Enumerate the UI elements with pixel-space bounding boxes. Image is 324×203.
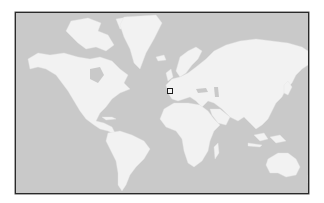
land-arctic-islands bbox=[66, 17, 130, 51]
land-north-america bbox=[28, 53, 130, 135]
world-map[interactable] bbox=[15, 12, 309, 194]
land-madagascar bbox=[214, 143, 219, 159]
land-greenland bbox=[120, 15, 162, 69]
land-iceland bbox=[156, 55, 166, 61]
land-south-america bbox=[106, 131, 150, 191]
map-canvas bbox=[16, 13, 308, 193]
location-marker[interactable] bbox=[167, 88, 173, 94]
land-caribbean bbox=[102, 117, 116, 120]
land-australia bbox=[266, 153, 300, 177]
land-indonesia bbox=[248, 133, 286, 147]
